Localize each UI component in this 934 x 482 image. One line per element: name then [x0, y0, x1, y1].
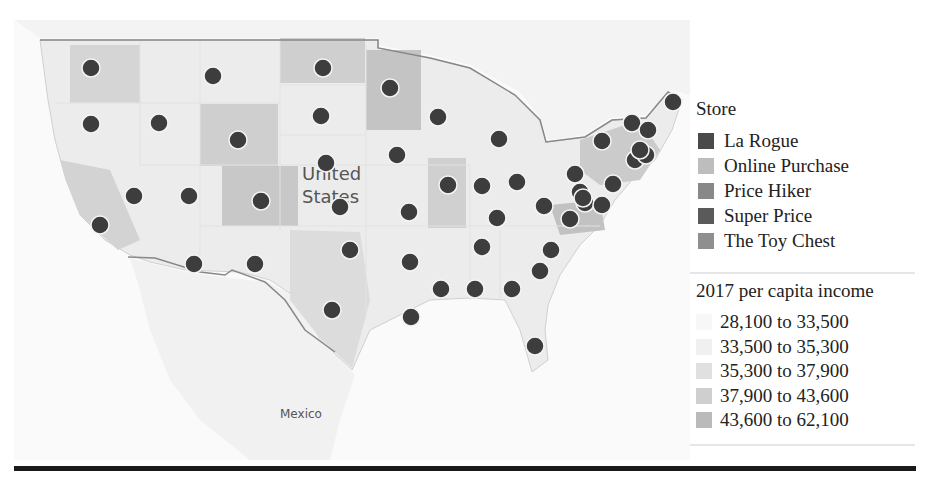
- store-marker[interactable]: [312, 107, 330, 125]
- legend-label: Online Purchase: [724, 155, 849, 177]
- store-marker[interactable]: [488, 209, 506, 227]
- legend-item-the-toy-chest[interactable]: The Toy Chest: [690, 228, 915, 253]
- store-marker[interactable]: [531, 262, 549, 280]
- swatch-income-3: [696, 363, 712, 379]
- country-label-mexico: Mexico: [280, 407, 322, 421]
- legend-label: 35,300 to 37,900: [720, 360, 849, 382]
- legend-item-income-1[interactable]: 28,100 to 33,500: [690, 310, 915, 335]
- store-marker[interactable]: [664, 93, 682, 111]
- store-marker[interactable]: [317, 154, 335, 172]
- legend-item-income-5[interactable]: 43,600 to 62,100: [690, 408, 915, 433]
- legend-item-online-purchase[interactable]: Online Purchase: [690, 153, 915, 178]
- swatch-income-4: [696, 388, 712, 404]
- store-marker[interactable]: [466, 280, 484, 298]
- legend-label: 43,600 to 62,100: [720, 409, 849, 431]
- store-marker[interactable]: [508, 173, 526, 191]
- store-marker[interactable]: [593, 132, 611, 150]
- legend-item-la-rogue[interactable]: La Rogue: [690, 128, 915, 153]
- store-marker[interactable]: [82, 115, 100, 133]
- store-marker[interactable]: [150, 114, 168, 132]
- income-legend: 2017 per capita income 28,100 to 33,500 …: [690, 272, 915, 446]
- swatch-online-purchase: [698, 158, 714, 174]
- store-marker[interactable]: [314, 59, 332, 77]
- store-marker[interactable]: [400, 203, 418, 221]
- store-marker[interactable]: [439, 176, 457, 194]
- country-label-us-line2: States: [302, 186, 359, 207]
- store-marker[interactable]: [252, 192, 270, 210]
- store-marker[interactable]: [604, 175, 622, 193]
- store-marker[interactable]: [246, 255, 264, 273]
- swatch-income-5: [696, 412, 712, 428]
- legend-label: 33,500 to 35,300: [720, 336, 849, 358]
- legend-label: 37,900 to 43,600: [720, 385, 849, 407]
- store-marker[interactable]: [432, 280, 450, 298]
- store-marker[interactable]: [323, 301, 341, 319]
- legend-item-income-2[interactable]: 33,500 to 35,300: [690, 335, 915, 360]
- store-marker[interactable]: [566, 165, 584, 183]
- store-marker[interactable]: [125, 187, 143, 205]
- swatch-income-2: [696, 339, 712, 355]
- store-legend: Store La Rogue Online Purchase Price Hik…: [690, 92, 915, 262]
- store-marker[interactable]: [639, 121, 657, 139]
- store-marker[interactable]: [593, 196, 611, 214]
- store-marker[interactable]: [473, 238, 491, 256]
- store-marker[interactable]: [490, 130, 508, 148]
- state-washington: [70, 45, 140, 103]
- swatch-super-price: [698, 208, 714, 224]
- store-marker[interactable]: [185, 255, 203, 273]
- swatch-price-hiker: [698, 183, 714, 199]
- store-marker[interactable]: [388, 146, 406, 164]
- store-marker[interactable]: [503, 280, 521, 298]
- legend-label: La Rogue: [724, 130, 798, 152]
- swatch-the-toy-chest: [698, 233, 714, 249]
- store-marker[interactable]: [542, 241, 560, 259]
- legend-item-price-hiker[interactable]: Price Hiker: [690, 178, 915, 203]
- store-marker[interactable]: [180, 187, 198, 205]
- legend-label: Super Price: [724, 205, 812, 227]
- legend-item-super-price[interactable]: Super Price: [690, 203, 915, 228]
- store-marker[interactable]: [561, 210, 579, 228]
- store-legend-title: Store: [696, 98, 915, 120]
- income-legend-title: 2017 per capita income: [696, 280, 915, 302]
- legend-label: Price Hiker: [724, 180, 811, 202]
- store-marker[interactable]: [526, 337, 544, 355]
- swatch-la-rogue: [698, 133, 714, 149]
- store-marker[interactable]: [204, 67, 222, 85]
- store-marker[interactable]: [91, 216, 109, 234]
- store-marker[interactable]: [631, 141, 649, 159]
- store-marker[interactable]: [381, 79, 399, 97]
- store-marker[interactable]: [574, 189, 592, 207]
- store-marker[interactable]: [82, 59, 100, 77]
- swatch-income-1: [696, 314, 712, 330]
- store-marker[interactable]: [473, 177, 491, 195]
- legend-label: 28,100 to 33,500: [720, 311, 849, 333]
- store-marker[interactable]: [429, 108, 447, 126]
- store-marker[interactable]: [535, 197, 553, 215]
- bottom-divider: [14, 466, 916, 471]
- legend-label: The Toy Chest: [724, 230, 835, 252]
- store-marker[interactable]: [341, 241, 359, 259]
- store-marker[interactable]: [402, 308, 420, 326]
- legend-item-income-3[interactable]: 35,300 to 37,900: [690, 359, 915, 384]
- store-marker[interactable]: [401, 253, 419, 271]
- legend-item-income-4[interactable]: 37,900 to 43,600: [690, 384, 915, 409]
- store-marker[interactable]: [331, 198, 349, 216]
- store-marker[interactable]: [229, 131, 247, 149]
